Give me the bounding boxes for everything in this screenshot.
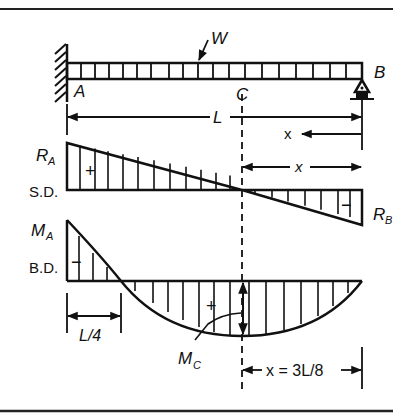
moment-a-subscript: A [45, 230, 53, 242]
span-label: L [213, 108, 222, 127]
max-moment-label: M [178, 349, 193, 368]
inflection-label: L/4 [79, 327, 101, 344]
roller-support-icon [350, 80, 374, 99]
moment-positive-sign: + [206, 296, 217, 316]
shear-positive-sign: + [85, 161, 96, 181]
shear-negative-sign: − [341, 195, 352, 215]
shear-x-label: x [294, 158, 303, 175]
point-a-label: A [73, 82, 85, 101]
max-position-label: x = 3L/8 [266, 362, 323, 379]
moment-diagram-label: B.D. [29, 259, 58, 276]
reaction-a-subscript: A [47, 155, 55, 167]
load-label: W [211, 29, 229, 48]
reaction-a-label: R [36, 146, 48, 165]
fixed-support-wall [55, 44, 67, 102]
reaction-b-label: R [373, 205, 385, 224]
point-b-label: B [374, 63, 385, 82]
moment-negative-sign: − [71, 252, 82, 272]
load-pointer-arrow [199, 40, 208, 60]
max-moment-subscript: C [193, 359, 201, 371]
beam-diagram-figure: W A B C L x [0, 0, 408, 413]
beam-with-udl [67, 63, 362, 79]
moment-a-label: M [31, 221, 46, 240]
shear-diagram-label: S.D. [29, 183, 58, 200]
reaction-b-subscript: B [385, 214, 392, 226]
shear-force-diagram [67, 143, 362, 225]
bending-moment-diagram [67, 220, 362, 336]
x-direction-label: x [284, 125, 292, 142]
